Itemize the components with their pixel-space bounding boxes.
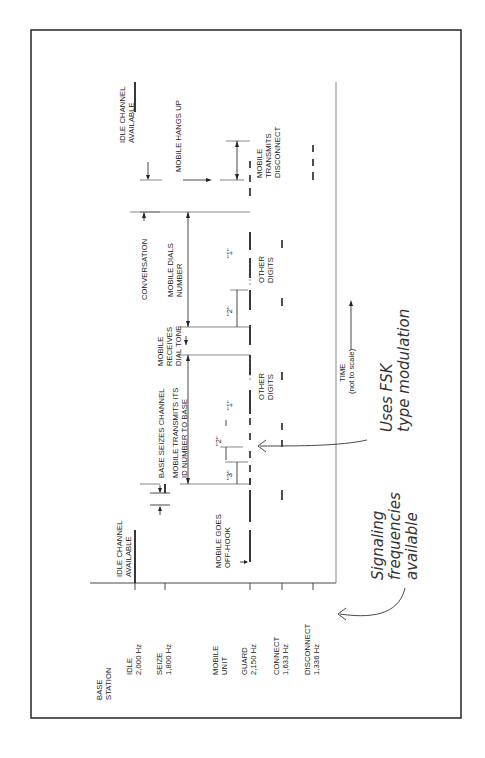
mobile-transmits-id: MOBILE TRANSMITS ITSID NUMBER TO BASE: [171, 388, 189, 478]
idle-channel-available-end: IDLE CHANNELAVAILABLE: [118, 87, 136, 143]
svg-text:GUARD2,150 Hz: GUARD2,150 Hz: [240, 644, 258, 675]
signaling-frequencies-annotation: Signalingfrequenciesavailable: [369, 492, 421, 580]
svg-text:IDLE2,000 Hz: IDLE2,000 Hz: [125, 644, 143, 675]
base-seizes-channel: BASE SEIZES CHANNEL: [157, 388, 166, 478]
other-digits-id: OTHERDIGITS: [257, 373, 275, 400]
other-digits-number: OTHERDIGITS: [257, 256, 275, 283]
digit-1-number: "1": [225, 248, 234, 258]
digit-3: "3": [225, 470, 234, 480]
idle-channel-available-start: IDLE CHANNELAVAILABLE: [115, 521, 133, 577]
conversation: CONVERSATION: [140, 239, 149, 300]
digit-2-id: "2": [214, 436, 223, 446]
mobile-receives-dial-tone: MOBILERECEIVESDIAL TONE: [156, 326, 183, 366]
svg-text:DISCONNECT1,336 Hz: DISCONNECT1,336 Hz: [303, 624, 321, 675]
mobile-hangs-up: MOBILE HANGS UP: [174, 100, 183, 172]
time-axis-label: TIME(not to scale): [338, 348, 356, 394]
signaling-timing-diagram: BASESTATION IDLE2,000 Hz SEIZE1,800 Hz M…: [0, 0, 485, 758]
fsk-annotation: Uses FSKtype modulation: [378, 309, 413, 432]
row-labels: BASESTATION IDLE2,000 Hz SEIZE1,800 Hz M…: [95, 624, 321, 700]
frequencies-arrow: [340, 588, 405, 616]
digit-2-number: "2": [225, 306, 234, 316]
digit-1-id: "1": [225, 400, 234, 410]
svg-text:CONNECT1,633 Hz: CONNECT1,633 Hz: [272, 636, 290, 675]
mobile-dials-number: MOBILE DIALSNUMBER: [166, 243, 184, 297]
svg-text:SEIZE1,800 Hz: SEIZE1,800 Hz: [155, 644, 173, 675]
row-ticks: [135, 583, 313, 590]
mobile-transmits-disconnect: MOBILETRANSMITSDISCONNECT: [255, 127, 282, 178]
svg-text:BASESTATION: BASESTATION: [95, 668, 113, 700]
fsk-arrow: [260, 440, 367, 446]
mobile-goes-off-hook: MOBILE GOESOFF-HOOK: [214, 514, 232, 568]
svg-text:MOBILEUNIT: MOBILEUNIT: [211, 646, 229, 675]
